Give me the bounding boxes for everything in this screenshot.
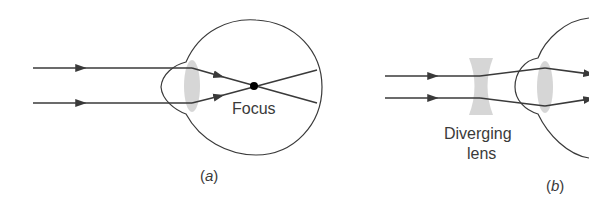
- panel-a-caption: (a): [200, 168, 218, 183]
- diverging-lens-label-line1: Diverging: [444, 126, 512, 142]
- focus-point-icon: [250, 82, 258, 90]
- ray-top-diverged-b: [480, 68, 545, 76]
- focus-label: Focus: [232, 101, 276, 117]
- diverging-lens-icon: [469, 58, 493, 115]
- eye-optics-figure: [0, 0, 589, 203]
- caption-close-paren: ): [213, 167, 218, 184]
- caption-close-paren: ): [559, 177, 564, 194]
- panel-b-caption: (b): [546, 178, 564, 193]
- panel-a: [33, 20, 322, 155]
- diverging-lens-label-line2: lens: [467, 146, 496, 162]
